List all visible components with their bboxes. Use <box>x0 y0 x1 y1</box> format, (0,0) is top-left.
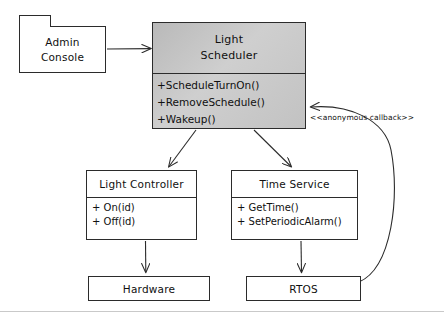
time-service-operations: + GetTime() + SetPeriodicAlarm() <box>232 197 357 230</box>
operation-item: + On(id) <box>92 201 196 215</box>
light-scheduler-operations: +ScheduleTurnOn() +RemoveSchedule() +Wak… <box>153 73 305 130</box>
node-rtos[interactable]: RTOS <box>246 276 361 301</box>
operation-item: +ScheduleTurnOn() <box>157 77 305 94</box>
operation-item: +RemoveSchedule() <box>157 94 305 111</box>
light-scheduler-title-line1: Light <box>215 32 243 48</box>
node-time-service[interactable]: Time Service + GetTime() + SetPeriodicAl… <box>231 170 358 240</box>
edge-light-scheduler-to-time-service <box>254 130 291 167</box>
operation-item: + SetPeriodicAlarm() <box>237 215 357 229</box>
light-scheduler-title-line2: Scheduler <box>201 48 258 64</box>
node-light-controller[interactable]: Light Controller + On(id) + Off(id) <box>86 170 197 240</box>
node-admin-console[interactable]: Admin Console <box>19 26 106 73</box>
admin-console-title-line1: Admin <box>45 35 79 50</box>
operation-item: +Wakeup() <box>157 111 305 128</box>
anonymous-callback-stereotype-label: <<anonymous callback>> <box>310 113 414 122</box>
node-hardware[interactable]: Hardware <box>88 276 210 301</box>
operation-item: + GetTime() <box>237 201 357 215</box>
light-controller-header: Light Controller <box>87 171 196 197</box>
light-controller-title: Light Controller <box>99 178 183 190</box>
hardware-title: Hardware <box>123 283 175 295</box>
uml-diagram-canvas: Admin Console Light Scheduler +ScheduleT… <box>0 0 444 319</box>
admin-console-package-tab <box>19 15 51 27</box>
rtos-title: RTOS <box>289 283 318 295</box>
edge-light-scheduler-to-light-controller <box>169 130 196 167</box>
operation-item: + Off(id) <box>92 215 196 229</box>
time-service-header: Time Service <box>232 171 357 197</box>
edge-time-service-to-rtos <box>301 241 302 272</box>
light-controller-operations: + On(id) + Off(id) <box>87 197 196 230</box>
light-scheduler-header: Light Scheduler <box>153 23 305 73</box>
admin-console-title-line2: Console <box>41 50 84 65</box>
figure-bottom-rule <box>0 311 444 312</box>
time-service-title: Time Service <box>259 178 329 190</box>
node-light-scheduler[interactable]: Light Scheduler +ScheduleTurnOn() +Remov… <box>152 22 306 129</box>
